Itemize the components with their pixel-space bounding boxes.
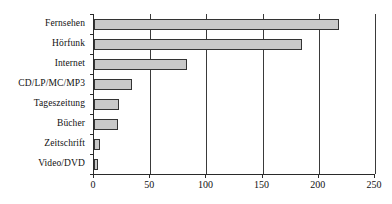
y-axis-tick: [90, 34, 94, 35]
x-axis-tick-mark: [262, 174, 263, 178]
plot-area: [93, 14, 375, 174]
x-axis-tick-label: 250: [367, 180, 382, 190]
category-label: Video/DVD: [38, 159, 85, 169]
x-axis-tick-label: 150: [254, 180, 269, 190]
bar: [94, 139, 100, 150]
category-label-cell: Hörfunk: [0, 34, 89, 54]
y-axis-tick: [90, 154, 94, 155]
bar: [94, 59, 187, 70]
bar-row: [94, 134, 375, 154]
bar: [94, 159, 98, 170]
category-label: Tageszeitung: [34, 99, 85, 109]
y-axis-tick: [90, 114, 94, 115]
x-axis-tick-mark: [149, 174, 150, 178]
bar: [94, 99, 119, 110]
bar-row: [94, 14, 375, 34]
bar-row: [94, 74, 375, 94]
x-axis-tick-mark: [374, 174, 375, 178]
bar-row: [94, 34, 375, 54]
x-axis-tick-mark: [318, 174, 319, 178]
bar-row: [94, 54, 375, 74]
x-axis-tick-label: 0: [91, 180, 96, 190]
y-axis-tick: [90, 54, 94, 55]
gridline: [375, 14, 376, 174]
x-axis-tick-label: 50: [144, 180, 154, 190]
category-label: Hörfunk: [52, 39, 85, 49]
y-axis-tick: [90, 94, 94, 95]
bar-series: [94, 14, 375, 174]
x-axis-tick-label: 100: [198, 180, 213, 190]
category-axis-labels: FernsehenHörfunkInternetCD/LP/MC/MP3Tage…: [0, 14, 89, 174]
category-label-cell: Bücher: [0, 114, 89, 134]
category-label-cell: Internet: [0, 54, 89, 74]
bar-chart: FernsehenHörfunkInternetCD/LP/MC/MP3Tage…: [0, 0, 392, 204]
bar: [94, 119, 118, 130]
bar: [94, 19, 339, 30]
category-label: Bücher: [57, 119, 85, 129]
x-axis-ticks: 050100150200250: [93, 174, 374, 200]
category-label: Internet: [55, 59, 85, 69]
category-label-cell: Zeitschrift: [0, 134, 89, 154]
y-axis-tick: [90, 134, 94, 135]
x-axis-tick-mark: [93, 174, 94, 178]
x-axis-tick-label: 200: [310, 180, 325, 190]
category-label-cell: Video/DVD: [0, 154, 89, 174]
bar-row: [94, 154, 375, 174]
category-label-cell: Tageszeitung: [0, 94, 89, 114]
y-axis-tick: [90, 74, 94, 75]
category-label: Zeitschrift: [44, 139, 85, 149]
category-label: Fernsehen: [45, 19, 85, 29]
bar: [94, 79, 132, 90]
x-axis-tick-mark: [205, 174, 206, 178]
bar: [94, 39, 302, 50]
category-label-cell: CD/LP/MC/MP3: [0, 74, 89, 94]
category-label: CD/LP/MC/MP3: [18, 79, 85, 89]
bar-row: [94, 94, 375, 114]
category-label-cell: Fernsehen: [0, 14, 89, 34]
bar-row: [94, 114, 375, 134]
y-axis-tick: [90, 14, 94, 15]
